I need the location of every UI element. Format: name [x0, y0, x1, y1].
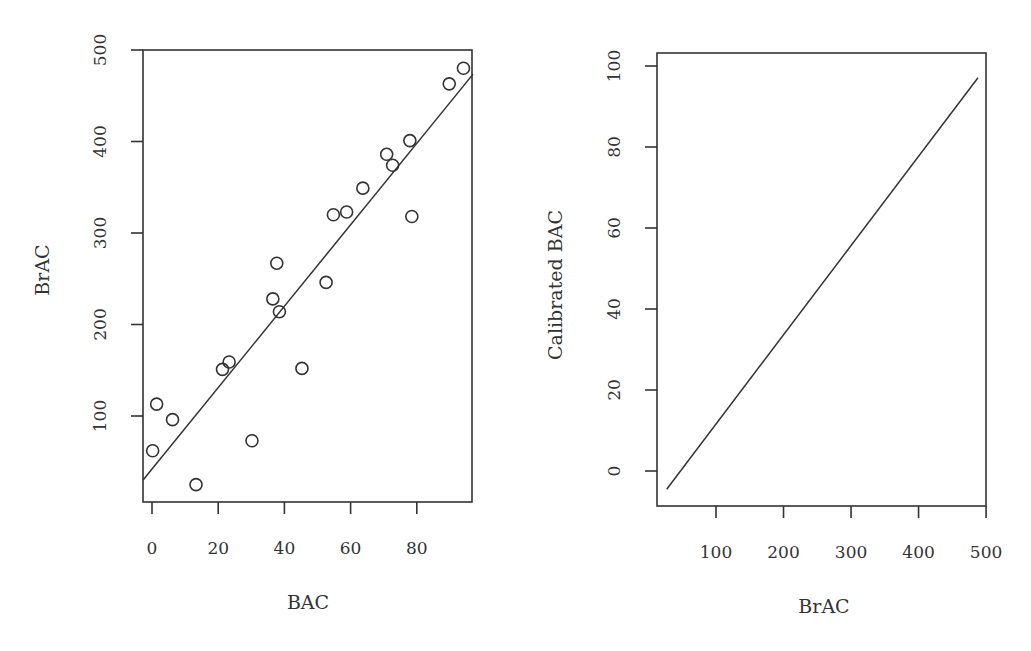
x-tick-label: 60	[340, 538, 362, 558]
x-tick-label: 0	[147, 538, 158, 558]
data-point	[320, 276, 332, 288]
y-tick-label: 300	[90, 217, 110, 249]
x-tick-label: 400	[902, 542, 934, 562]
right-x-axis: 100200300400500	[700, 506, 1003, 562]
data-point	[190, 479, 202, 491]
x-tick-label: 200	[767, 542, 799, 562]
right-x-axis-title: BrAC	[798, 595, 849, 617]
x-tick-label: 80	[406, 538, 428, 558]
y-tick-label: 40	[604, 298, 624, 320]
left-scatter-plot: 020406080 100200300400500 BAC BrAC	[31, 34, 473, 613]
regression-line	[143, 74, 473, 480]
data-point	[296, 362, 308, 374]
figure: 020406080 100200300400500 BAC BrAC 10020…	[0, 0, 1031, 651]
x-tick-label: 300	[835, 542, 867, 562]
data-point	[151, 398, 163, 410]
y-tick-label: 400	[90, 125, 110, 157]
x-tick-label: 20	[207, 538, 229, 558]
right-line-plot: 100200300400500 020406080100 BrAC Calibr…	[544, 50, 1002, 617]
left-y-axis-title: BrAC	[31, 244, 53, 295]
right-y-axis-title: Calibrated BAC	[544, 210, 566, 360]
y-tick-label: 200	[90, 308, 110, 340]
data-point	[147, 445, 159, 457]
data-point	[404, 135, 416, 147]
x-tick-label: 500	[970, 542, 1002, 562]
y-tick-label: 500	[90, 34, 110, 66]
data-point	[223, 356, 235, 368]
left-x-axis: 020406080	[147, 502, 428, 558]
calibration-line	[667, 78, 978, 489]
data-point	[457, 62, 469, 74]
y-tick-label: 20	[604, 379, 624, 401]
right-y-axis: 020406080100	[604, 50, 657, 477]
data-point	[267, 293, 279, 305]
data-point	[443, 78, 455, 90]
data-point	[381, 148, 393, 160]
left-plot-frame	[143, 50, 472, 502]
y-tick-label: 100	[90, 400, 110, 432]
y-tick-label: 60	[604, 217, 624, 239]
y-tick-label: 0	[604, 466, 624, 477]
y-tick-label: 80	[604, 136, 624, 158]
data-point	[406, 211, 418, 223]
data-point	[271, 257, 283, 269]
y-tick-label: 100	[604, 50, 624, 82]
x-tick-label: 100	[700, 542, 732, 562]
left-x-axis-title: BAC	[287, 591, 329, 613]
x-tick-label: 40	[274, 538, 296, 558]
data-point	[327, 209, 339, 221]
data-point	[357, 182, 369, 194]
data-point	[217, 363, 229, 375]
data-point	[341, 206, 353, 218]
left-y-axis: 100200300400500	[90, 34, 143, 432]
data-point	[167, 414, 179, 426]
data-point	[387, 159, 399, 171]
data-point	[246, 435, 258, 447]
